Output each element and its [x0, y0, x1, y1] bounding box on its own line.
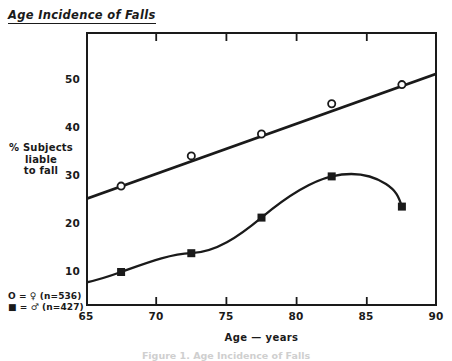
female-point-72.5 [188, 152, 195, 159]
male-point-72.5 [187, 249, 195, 257]
y-axis-title-line-1: % Subjects [2, 142, 80, 154]
y-axis-title-line-2: liable [2, 154, 80, 166]
x-tick-label-70: 70 [141, 310, 171, 322]
top-tick-marks [156, 33, 367, 41]
axis-frame [87, 33, 436, 305]
y-tick-label-10: 10 [50, 265, 80, 277]
y-axis-title-line-3: to fall [2, 165, 80, 177]
male-point-82.5 [328, 172, 336, 180]
y-axis-title: % Subjects liable to fall [2, 142, 80, 177]
x-axis-title: Age — years [86, 332, 437, 343]
legend-item-male: ■ = ♂ (n=427) [8, 302, 84, 313]
y-tick-label-40: 40 [50, 121, 80, 133]
male-point-77.5 [258, 214, 266, 222]
female-point-82.5 [328, 100, 335, 107]
plot-area [86, 32, 437, 306]
male-data-markers [117, 172, 406, 276]
male-point-87.5 [398, 203, 406, 211]
female-point-77.5 [258, 130, 265, 137]
legend: O = ♀ (n=536) ■ = ♂ (n=427) [8, 291, 84, 312]
y-tick-label-20: 20 [50, 217, 80, 229]
male-point-67.5 [117, 268, 125, 276]
y-tick-label-50: 50 [50, 73, 80, 85]
figure-caption: Figure 1. Age Incidence of Falls [0, 350, 452, 361]
x-tick-label-85: 85 [351, 310, 381, 322]
plot-svg [86, 32, 437, 306]
legend-item-female: O = ♀ (n=536) [8, 291, 84, 302]
x-tick-label-80: 80 [281, 310, 311, 322]
male-trend-curve [86, 174, 402, 282]
figure-age-incidence-of-falls: Age Incidence of Falls 50 40 30 20 10 65… [0, 0, 452, 361]
x-tick-label-75: 75 [211, 310, 241, 322]
page-title: Age Incidence of Falls [8, 8, 156, 24]
bottom-tick-marks [156, 297, 367, 305]
x-tick-label-90: 90 [421, 310, 451, 322]
female-point-87.5 [398, 81, 405, 88]
female-point-67.5 [118, 183, 125, 190]
